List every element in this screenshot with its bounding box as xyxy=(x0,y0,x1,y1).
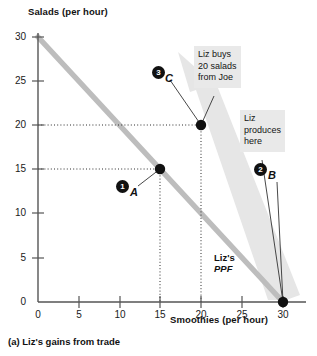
x-tick-20: 20 xyxy=(191,309,211,320)
x-tick-30: 30 xyxy=(273,309,293,320)
trade-arrow xyxy=(178,52,300,300)
y-tick-20: 20 xyxy=(4,119,26,130)
y-tick-5: 5 xyxy=(4,252,26,263)
badge-point-a: 1 xyxy=(116,180,129,193)
y-tick-25: 25 xyxy=(4,75,26,86)
ppf-label: Liz's PPF xyxy=(214,252,235,274)
callout-liz-buys: Liz buys 20 salads from Joe xyxy=(194,46,241,88)
callout-b-line1: Liz xyxy=(244,113,281,125)
y-tick-15: 15 xyxy=(4,163,26,174)
callout-c-line1: Liz buys xyxy=(198,49,237,61)
ppf-label-line2: PPF xyxy=(214,263,232,274)
callout-c-line2: 20 salads xyxy=(198,61,237,73)
label-point-b: B xyxy=(268,169,276,181)
x-tick-10: 10 xyxy=(110,309,130,320)
y-axis-title: Salads (per hour) xyxy=(28,6,108,17)
callout-liz-produces: Liz produces here xyxy=(240,110,285,152)
x-tick-15: 15 xyxy=(150,309,170,320)
y-tick-30: 30 xyxy=(4,31,26,42)
ppf-label-line1: Liz's xyxy=(214,252,235,263)
label-point-c: C xyxy=(165,72,173,84)
callout-c-line3: from Joe xyxy=(198,72,237,84)
figure-caption: (a) Liz's gains from trade xyxy=(8,336,120,347)
guide-lines xyxy=(38,125,201,302)
callout-b-line3: here xyxy=(244,136,281,148)
data-point-a[interactable] xyxy=(155,164,165,174)
badge-point-c: 3 xyxy=(152,66,165,79)
badge-point-b: 2 xyxy=(254,163,267,176)
chart-canvas xyxy=(0,0,317,330)
x-tick-5: 5 xyxy=(69,309,89,320)
x-tick-25: 25 xyxy=(232,309,252,320)
x-tick-0: 0 xyxy=(28,309,48,320)
data-point-b[interactable] xyxy=(278,297,288,307)
x-axis-title: Smoothies (per hour) xyxy=(170,314,268,325)
callout-b-line2: produces xyxy=(244,125,281,137)
y-tick-0: 0 xyxy=(4,296,26,307)
label-point-a: A xyxy=(130,186,138,198)
data-point-c[interactable] xyxy=(196,120,206,130)
figure-panel: Salads (per hour) Smoothies (per hour) 3… xyxy=(0,0,317,356)
y-tick-10: 10 xyxy=(4,207,26,218)
